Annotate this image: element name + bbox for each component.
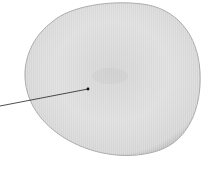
cell-body <box>25 3 200 156</box>
cell-illustration <box>0 0 214 176</box>
cell-center-shading <box>92 68 128 84</box>
pointer-dot <box>87 88 90 91</box>
